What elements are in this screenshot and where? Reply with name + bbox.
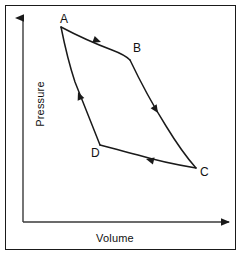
point-label-d: D: [91, 146, 100, 160]
pv-cycle-figure: A B C D Pressure Volume: [0, 0, 243, 259]
y-axis-label: Pressure: [34, 69, 46, 139]
direction-arrowheads: [75, 36, 161, 165]
x-axis-label: Volume: [96, 232, 134, 244]
segment-a-to-b: [61, 27, 130, 60]
point-label-a: A: [60, 12, 68, 26]
point-label-c: C: [200, 165, 209, 179]
segment-c-to-d: [100, 145, 196, 168]
arrowhead-b-to-c: [151, 104, 161, 115]
segment-b-to-c: [130, 60, 196, 168]
segment-d-to-a: [61, 27, 100, 145]
point-label-b: B: [133, 41, 141, 55]
